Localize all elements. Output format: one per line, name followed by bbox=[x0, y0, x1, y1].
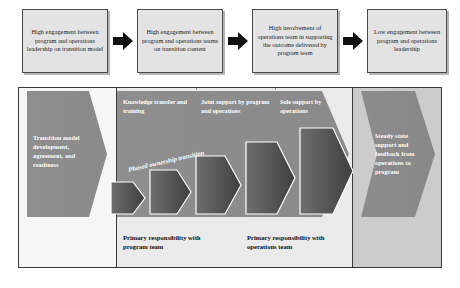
footer-label-program: Primary responsibility with program team bbox=[123, 234, 223, 252]
flow-box-1-label: High engagement between program and oper… bbox=[26, 28, 104, 53]
left-panel-shape bbox=[19, 88, 117, 269]
flow-box-4: Low engagement between program and opera… bbox=[367, 9, 447, 73]
panel-right: Steady state support and feedback from o… bbox=[353, 88, 441, 267]
footer-label-operations: Primary responsibility with operations t… bbox=[247, 234, 351, 252]
right-arrow-icon bbox=[227, 30, 249, 52]
flow-box-2: High engagement between program and oper… bbox=[137, 9, 223, 73]
right-arrow-icon bbox=[112, 30, 134, 52]
right-arrow-icon bbox=[342, 30, 364, 52]
flow-box-1: High engagement between program and oper… bbox=[22, 9, 108, 73]
left-panel-label: Transition model development, agreement,… bbox=[33, 134, 89, 170]
panel-middle: Knowledge transfer and training Joint su… bbox=[117, 88, 353, 267]
right-panel-shape bbox=[353, 88, 441, 269]
flow-box-3: High involvement of operations team in s… bbox=[252, 9, 338, 73]
transition-diagram-frame: Transition model development, agreement,… bbox=[18, 87, 442, 268]
right-panel-label: Steady state support and feedback from o… bbox=[375, 132, 427, 177]
flow-box-2-label: High engagement between program and oper… bbox=[141, 28, 219, 53]
panel-left: Transition model development, agreement,… bbox=[19, 88, 117, 267]
flow-box-4-label: Low engagement between program and opera… bbox=[371, 28, 443, 53]
flow-box-3-label: High involvement of operations team in s… bbox=[256, 24, 334, 57]
diagram-root: High engagement between program and oper… bbox=[0, 0, 460, 288]
